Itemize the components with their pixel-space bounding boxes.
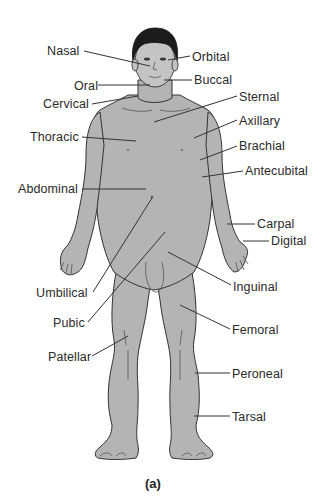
label-axillary: Axillary: [239, 114, 280, 128]
label-digital: Digital: [271, 234, 306, 248]
label-oral: Oral: [74, 79, 98, 93]
figure-caption: (a): [145, 476, 161, 491]
human-body-illustration: [0, 0, 329, 502]
label-cervical: Cervical: [43, 97, 89, 111]
label-nasal: Nasal: [47, 44, 79, 58]
label-peroneal: Peroneal: [232, 367, 283, 381]
label-tarsal: Tarsal: [232, 410, 266, 424]
label-thoracic: Thoracic: [30, 130, 79, 144]
label-buccal: Buccal: [194, 73, 232, 87]
label-pubic: Pubic: [53, 316, 85, 330]
label-orbital: Orbital: [192, 50, 230, 64]
label-femoral: Femoral: [232, 323, 279, 337]
label-brachial: Brachial: [239, 139, 285, 153]
label-inguinal: Inguinal: [233, 280, 278, 294]
label-umbilical: Umbilical: [36, 286, 88, 300]
label-carpal: Carpal: [257, 217, 294, 231]
label-patellar: Patellar: [48, 350, 91, 364]
label-antecubital: Antecubital: [245, 164, 308, 178]
anatomical-regions-figure: Nasal Oral Cervical Thoracic Abdominal U…: [0, 0, 329, 502]
label-sternal: Sternal: [239, 90, 279, 104]
label-abdominal: Abdominal: [18, 182, 78, 196]
